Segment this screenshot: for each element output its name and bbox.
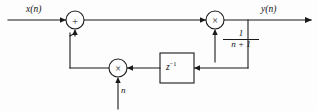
gain-numerator: 1 [221, 29, 261, 38]
summing-junction-glyph: + [72, 15, 78, 27]
input-signal-label: x(n) [26, 5, 41, 15]
arrowhead-into-delay [194, 65, 200, 70]
arrowhead-into-adder [60, 17, 66, 22]
modulator-signal-label: n [121, 86, 126, 95]
arrowhead-output [305, 17, 312, 23]
arrowhead-into-feedback-multiplier [127, 65, 133, 70]
arrowhead-gain-into-multiplier [212, 29, 217, 35]
unit-delay-label: z−1 [166, 61, 177, 73]
feedback-multiplier-glyph: × [115, 63, 121, 74]
arrowhead-feedback-into-adder [72, 29, 77, 35]
forward-multiplier-glyph: × [212, 15, 218, 26]
gain-coefficient-fraction: 1 n + 1 [221, 29, 261, 50]
gain-denominator: n + 1 [221, 40, 261, 49]
unit-delay-exponent: −1 [170, 60, 177, 67]
diagram-vector-layer: + × × [0, 0, 317, 111]
arrowhead-into-forward-multiplier [200, 17, 206, 22]
block-diagram-canvas: + × × x(n) y(n) n z−1 1 n + 1 [0, 0, 317, 111]
output-signal-label: y(n) [261, 5, 276, 15]
arrowhead-n-into-feedback-multiplier [115, 77, 120, 83]
